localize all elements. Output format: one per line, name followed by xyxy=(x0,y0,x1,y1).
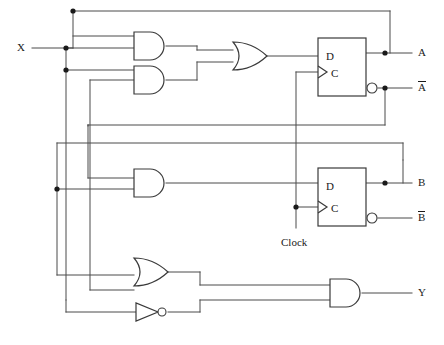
junction-dot xyxy=(63,45,68,50)
ffa-d-label: D xyxy=(326,50,334,62)
output-label-b-not-text: B xyxy=(418,211,425,224)
output-label-a-not: A xyxy=(418,81,426,94)
gate-not-1[interactable] xyxy=(136,303,166,321)
flipflop-b[interactable] xyxy=(318,168,377,226)
junction-dot xyxy=(382,180,387,185)
gate-and-2[interactable] xyxy=(134,66,164,94)
flipflop-a[interactable] xyxy=(318,38,377,96)
gate-and-4[interactable] xyxy=(330,279,360,307)
junction-dot xyxy=(63,67,68,72)
ffa-c-label: C xyxy=(331,67,338,79)
gate-or-1[interactable] xyxy=(233,42,267,70)
output-label-b: B xyxy=(418,177,425,188)
gate-and-3[interactable] xyxy=(134,169,164,197)
junction-dot xyxy=(382,85,387,90)
circuit-diagram-canvas: D C D C X Clock A A B B Y xyxy=(0,0,444,345)
output-label-y: Y xyxy=(418,287,426,298)
gate-and-1[interactable] xyxy=(134,32,164,60)
ffb-d-label: D xyxy=(326,180,334,192)
junction-dot xyxy=(54,186,59,191)
ffb-c-label: C xyxy=(331,202,338,214)
junction-dot xyxy=(70,8,75,13)
input-label-x: X xyxy=(17,42,25,53)
output-label-b-not: B xyxy=(418,211,425,224)
gate-or-2[interactable] xyxy=(134,258,168,286)
output-label-a-not-text: A xyxy=(418,81,426,94)
junction-dot xyxy=(382,50,387,55)
input-label-clock: Clock xyxy=(281,237,307,248)
junction-dot xyxy=(293,204,298,209)
circuit-schematic-svg: D C D C xyxy=(0,0,444,345)
output-label-a: A xyxy=(418,47,426,58)
